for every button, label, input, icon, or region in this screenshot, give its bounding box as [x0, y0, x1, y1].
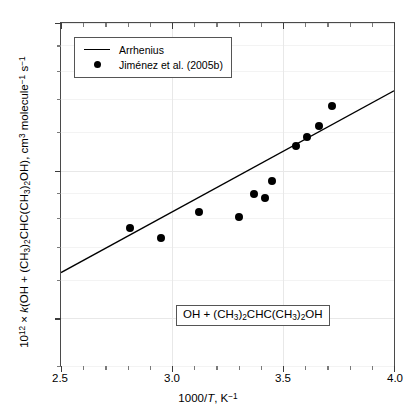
x-tick-label-3-5: 3.5 [275, 372, 291, 384]
data-point [315, 122, 323, 130]
chart-legend: Arrhenius Jiménez et al. (2005b) [74, 37, 232, 78]
data-point [157, 234, 165, 242]
x-tick-minor [239, 366, 240, 370]
legend-label-arrhenius: Arrhenius [113, 44, 164, 56]
x-tick-minor [83, 366, 84, 370]
y-axis-title: 1012 × k(OH + (CH3)2CHC(CH3)2OH), cm3 mo… [18, 27, 32, 377]
x-tick-label-3-0: 3.0 [164, 372, 180, 384]
gridline-horizontal-minor [61, 366, 394, 367]
x-tick-major-top [394, 23, 395, 29]
x-tick-minor [128, 366, 129, 370]
reaction-annotation: OH + (CH3)2CHC(CH3)2OH [176, 305, 330, 326]
x-tick-minor [105, 366, 106, 370]
x-tick-minor [350, 366, 351, 370]
x-tick-minor [216, 366, 217, 370]
legend-item-arrhenius: Arrhenius [81, 42, 223, 57]
data-point [268, 177, 276, 185]
x-tick-major [61, 366, 62, 372]
x-tick-minor [150, 366, 151, 370]
data-point [195, 208, 203, 216]
x-tick-major [172, 366, 173, 372]
data-point [292, 142, 300, 150]
plot-area: Arrhenius Jiménez et al. (2005b) OH + (C… [60, 22, 395, 367]
data-point [303, 133, 311, 141]
chart-figure: 1012 × k(OH + (CH3)2CHC(CH3)2OH), cm3 mo… [0, 0, 416, 419]
data-point [328, 102, 336, 110]
legend-line-swatch [81, 49, 113, 50]
x-tick-minor [194, 366, 195, 370]
x-tick-minor [305, 366, 306, 370]
data-point [235, 213, 243, 221]
legend-item-jimenez: Jiménez et al. (2005b) [81, 57, 223, 72]
data-point [250, 190, 258, 198]
x-tick-label-4-0: 4.0 [387, 372, 403, 384]
data-point [261, 194, 269, 202]
legend-label-jimenez: Jiménez et al. (2005b) [113, 59, 223, 71]
data-point [126, 224, 134, 232]
x-tick-minor [327, 366, 328, 370]
x-tick-minor [372, 366, 373, 370]
x-tick-major [394, 366, 395, 372]
x-tick-label-2-5: 2.5 [52, 372, 68, 384]
legend-dot-swatch [81, 61, 113, 68]
x-tick-minor [261, 366, 262, 370]
x-tick-major [283, 366, 284, 372]
x-axis-title: 1000/T, K−1 [0, 392, 416, 404]
